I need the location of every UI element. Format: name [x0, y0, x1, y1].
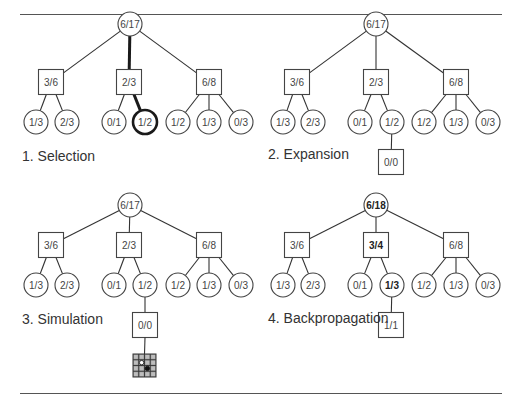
- tree-edge: [431, 95, 446, 113]
- circle-node: 1/3: [444, 273, 468, 297]
- panel-selection: 6/173/62/36/81/32/30/11/21/21/30/3: [24, 12, 253, 134]
- circle-node: 1/3: [271, 273, 295, 297]
- node-value: 2/3: [60, 280, 74, 291]
- selected-edge: [129, 36, 130, 70]
- tree-edge: [287, 95, 293, 111]
- circle-node: 6/17: [118, 12, 142, 36]
- mcts-diagram: 6/173/62/36/81/32/30/11/21/21/30/36/173/…: [0, 0, 517, 408]
- node-value: 1/3: [449, 117, 463, 128]
- circle-node: 1/3: [380, 273, 404, 297]
- square-node: 3/6: [285, 70, 310, 95]
- tree-edge: [431, 258, 446, 276]
- node-value: 0/1: [107, 117, 121, 128]
- tree-edge: [141, 210, 197, 238]
- square-node: 3/6: [285, 233, 310, 258]
- node-value: 3/6: [290, 240, 304, 251]
- circle-node: 0/3: [229, 273, 253, 297]
- circle-node: 2/3: [301, 273, 325, 297]
- square-node: 3/6: [39, 70, 64, 95]
- node-value: 1/2: [417, 117, 431, 128]
- node-value: 2/3: [306, 117, 320, 128]
- circle-node: 0/3: [476, 273, 500, 297]
- black-stone-icon: [145, 366, 149, 370]
- tree-edge: [56, 258, 63, 274]
- square-node: 6/8: [444, 70, 469, 95]
- white-stone-icon: [139, 360, 143, 364]
- node-value: 1/3: [29, 280, 43, 291]
- square-node: 0/0: [379, 150, 404, 175]
- node-value: 2/3: [122, 240, 136, 251]
- node-value: 0/3: [481, 117, 495, 128]
- circle-node: 6/18: [364, 193, 388, 217]
- circle-node: 1/3: [271, 110, 295, 134]
- panel-simulation: 6/173/62/36/81/32/30/11/21/21/30/30/0: [24, 193, 253, 377]
- node-value: 1/2: [385, 117, 399, 128]
- tree-edge: [140, 31, 197, 73]
- square-node: 6/8: [197, 233, 222, 258]
- node-value: 1/2: [138, 117, 152, 128]
- tree-edge: [134, 258, 141, 274]
- circle-node: 0/1: [102, 273, 126, 297]
- tree-edge: [310, 31, 367, 73]
- circle-node: 1/2: [133, 273, 157, 297]
- tree-edge: [364, 95, 371, 111]
- node-value: 0/3: [481, 280, 495, 291]
- rollout-edge: [145, 338, 146, 355]
- tree-edge: [40, 258, 46, 274]
- circle-node: 2/3: [55, 110, 79, 134]
- label-simulation: 3. Simulation: [22, 311, 103, 327]
- node-value: 3/6: [44, 77, 58, 88]
- node-value: 1/3: [276, 280, 290, 291]
- node-value: 0/3: [234, 280, 248, 291]
- tree-edge: [219, 95, 234, 113]
- node-value: 1/2: [171, 117, 185, 128]
- circle-node: 1/2: [380, 110, 404, 134]
- node-value: 0/1: [353, 117, 367, 128]
- node-value: 0/1: [107, 280, 121, 291]
- node-value: 6/8: [202, 240, 216, 251]
- label-selection: 1. Selection: [22, 148, 95, 164]
- circle-node: 1/3: [197, 273, 221, 297]
- circle-node: 6/17: [118, 193, 142, 217]
- square-node: 0/0: [133, 313, 158, 338]
- circle-node: 1/2: [166, 273, 190, 297]
- tree-diagrams: 6/173/62/36/81/32/30/11/21/21/30/36/173/…: [0, 0, 517, 408]
- node-value: 0/1: [353, 280, 367, 291]
- tree-edge: [118, 95, 124, 111]
- tree-edge: [466, 95, 481, 113]
- node-value: 1/3: [276, 117, 290, 128]
- node-value: 1/3: [29, 117, 43, 128]
- square-node: 6/8: [197, 70, 222, 95]
- square-node: 2/3: [117, 70, 142, 95]
- square-node: 2/3: [364, 70, 389, 95]
- tree-edge: [64, 31, 121, 73]
- tree-edge: [386, 31, 444, 73]
- circle-node: 6/17: [364, 12, 388, 36]
- tree-edge: [310, 210, 366, 238]
- tree-edge: [364, 258, 371, 274]
- node-value: 2/3: [369, 77, 383, 88]
- node-value: 2/3: [60, 117, 74, 128]
- selected-edge: [134, 95, 141, 111]
- square-node: 3/6: [39, 233, 64, 258]
- node-value: 1/3: [449, 280, 463, 291]
- circle-node: 0/1: [102, 110, 126, 134]
- node-value: 3/6: [290, 77, 304, 88]
- circle-node: 0/3: [476, 110, 500, 134]
- circle-node: 1/3: [24, 273, 48, 297]
- node-value: 1/3: [202, 117, 216, 128]
- node-value: 6/17: [366, 19, 386, 30]
- tree-edge: [185, 95, 199, 113]
- circle-node: 1/2: [166, 110, 190, 134]
- node-value: 6/8: [449, 240, 463, 251]
- tree-edge: [302, 95, 309, 111]
- circle-node: 0/1: [348, 273, 372, 297]
- circle-node-selected: 1/2: [133, 110, 157, 134]
- tree-edge: [381, 258, 388, 274]
- node-value: 0/3: [234, 117, 248, 128]
- circle-node: 1/3: [197, 110, 221, 134]
- node-value: 6/18: [366, 200, 386, 211]
- node-value: 6/8: [449, 77, 463, 88]
- circle-node: 1/2: [412, 110, 436, 134]
- node-value: 6/8: [202, 77, 216, 88]
